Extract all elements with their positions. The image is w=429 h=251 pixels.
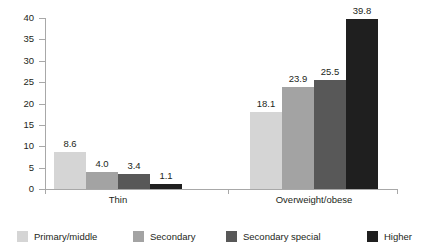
bar-value-label: 8.6 [48,139,92,149]
y-axis-tick-label: 30 [0,56,34,65]
x-axis-group-label: Thin [48,194,188,205]
bar [346,19,378,189]
bar [250,112,282,189]
bar [150,184,182,189]
plot-area: 8.64.03.41.118.123.925.539.8 [45,18,397,189]
y-axis-tick-label: 25 [0,77,34,86]
legend-item[interactable]: Higher [367,229,412,243]
y-axis-tick-label: 40 [0,13,34,22]
y-axis-tick-label: 5 [0,163,34,172]
legend-label: Higher [384,231,412,242]
legend-label: Secondary [150,231,195,242]
bar-value-label: 3.4 [112,161,156,171]
legend-swatch-icon [226,231,237,242]
legend-item[interactable]: Secondary [133,229,195,243]
legend-swatch-icon [17,231,28,242]
y-axis-tick-label: 35 [0,34,34,43]
legend-item[interactable]: Primary/middle [17,229,97,243]
x-axis-tick [397,189,398,194]
legend-label: Secondary special [243,231,321,242]
bar [314,80,346,189]
x-axis-group-label: Overweight/obese [244,194,384,205]
x-axis-tick [228,189,229,194]
bar [86,172,118,189]
x-axis-line [45,189,397,190]
legend-swatch-icon [133,231,144,242]
y-axis-tick-label: 20 [0,99,34,108]
bar [54,152,86,189]
bar-value-label: 1.1 [144,171,188,181]
bar [282,87,314,189]
y-axis-tick-label: 0 [0,184,34,193]
legend-label: Primary/middle [34,231,97,242]
y-axis-tick-label: 10 [0,141,34,150]
chart-legend: Primary/middleSecondarySecondary special… [0,229,429,251]
x-axis-tick [45,189,46,194]
legend-swatch-icon [367,231,378,242]
legend-item[interactable]: Secondary special [226,229,321,243]
y-axis-tick-label: 15 [0,120,34,129]
bar-chart: 4035302520151050 8.64.03.41.118.123.925.… [0,0,429,251]
bar-value-label: 39.8 [340,6,384,16]
